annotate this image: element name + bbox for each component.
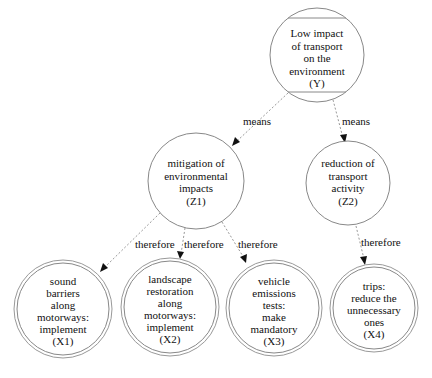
node-x4-line-2: reduce the [351,292,397,304]
node-x1-line-1: sound [50,275,77,287]
node-x1-line-5: implement [39,323,86,335]
node-z2-line-3: activity [332,182,365,194]
node-y-line-4: environment [289,65,345,77]
node-y-line-1: Low impact [291,27,344,39]
node-x1-line-3: along [51,299,76,311]
node-x2-line-2: restoration [146,285,194,297]
node-x2-line-6: (X2) [160,333,181,346]
node-x3-line-5: mandatory [250,323,298,335]
arrowhead-icon [232,137,240,146]
node-x2-line-3: along [158,297,183,309]
node-z1-line-2: environmental [164,170,228,182]
edge-z1-x2: therefore [177,228,224,259]
edge-label-therefore-2: therefore [184,238,224,250]
edge-label-means-2: means [342,115,370,127]
node-x1-line-4: motorways: [37,311,89,323]
node-z1: mitigation of environmental impacts (Z1) [148,133,244,229]
edge-z1-x3: therefore [222,222,278,263]
node-y-line-5: (Y) [309,77,325,90]
arrowhead-icon [177,251,184,259]
node-x4-line-1: trips: [363,280,386,292]
node-x2-line-5: implement [146,321,193,333]
node-y-line-2: of transport [291,40,342,52]
goal-means-diagram: means means therefore therefore therefor… [0,0,432,378]
node-z1-line-4: (Z1) [186,195,206,208]
node-x2-line-1: landscape [148,273,191,285]
node-x3-line-4: make [262,311,286,323]
node-x3: vehicle emissions tests: make mandatory … [226,260,322,356]
arrowhead-icon [240,254,247,263]
node-z1-line-1: mitigation of [167,157,224,169]
arrowhead-icon [100,263,108,272]
node-y-goal: Low impact of transport on the environme… [270,8,364,102]
node-x1-line-2: barriers [46,287,80,299]
edge-label-therefore-1: therefore [135,238,175,250]
node-x4-line-3: unnecessary [347,304,401,316]
edge-z2-x4: therefore [356,226,401,265]
node-z2-line-4: (Z2) [338,195,358,208]
node-x3-line-2: emissions [252,287,295,299]
node-z2-line-2: transport [328,170,367,182]
node-x2: landscape restoration along motorways: i… [121,258,219,356]
node-x4-line-5: (X4) [364,328,385,341]
arrowhead-icon [360,256,367,265]
node-x4-line-4: ones [364,316,384,328]
node-x1-line-6: (X1) [53,335,74,348]
node-z2-line-1: reduction of [321,157,375,169]
node-z2: reduction of transport activity (Z2) [306,141,390,225]
edge-label-therefore-3: therefore [238,238,278,250]
node-y-line-3: on the [303,52,330,64]
node-x1: sound barriers along motorways: implemen… [14,260,112,358]
edge-label-therefore-4: therefore [361,236,401,248]
node-x4: trips: reduce the unnecessary ones (X4) [330,264,418,352]
node-x3-line-1: vehicle [258,275,290,287]
edge-y-z1: means [232,93,288,146]
node-x3-line-3: tests: [263,299,286,311]
node-x3-line-6: (X3) [264,335,285,348]
node-x2-line-4: motorways: [144,309,196,321]
node-z1-line-3: impacts [179,182,213,194]
edge-label-means-1: means [243,115,271,127]
edge-y-z2: means [332,96,370,143]
